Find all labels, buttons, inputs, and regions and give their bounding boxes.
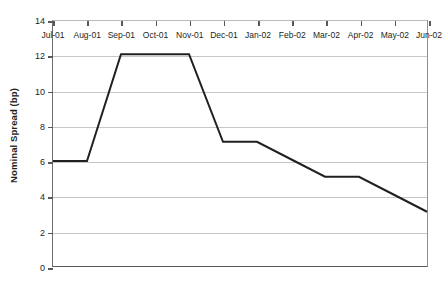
y-axis-tick-label: 0 xyxy=(40,263,45,273)
y-axis-title: Nominal Spread (bp) xyxy=(0,0,26,270)
y-axis-tick-mark xyxy=(48,268,53,270)
y-axis-title-label: Nominal Spread (bp) xyxy=(8,88,19,183)
y-axis-tick-label: 6 xyxy=(40,157,45,167)
y-axis-tick-label: 10 xyxy=(35,87,45,97)
y-axis-tick-label: 14 xyxy=(35,16,45,26)
y-axis-tick-label: 4 xyxy=(40,192,45,202)
y-axis-tick-label: 8 xyxy=(40,122,45,132)
data-series-line xyxy=(53,21,427,266)
x-axis-tick-mark xyxy=(429,21,431,26)
nominal-spread-line-chart: Nominal Spread (bp) 02468101214 Jul-01Au… xyxy=(0,0,444,300)
y-axis-tick-label: 2 xyxy=(40,228,45,238)
y-axis-tick-label: 12 xyxy=(35,51,45,61)
plot-area: 02468101214 Jul-01Aug-01Sep-01Oct-01Nov-… xyxy=(52,20,428,267)
